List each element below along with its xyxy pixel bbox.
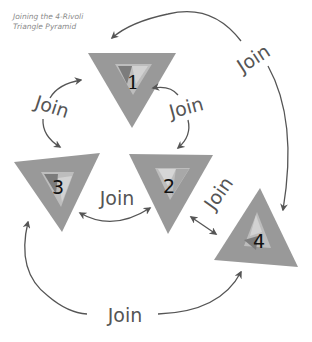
- join-3-2: Join: [80, 187, 150, 221]
- arrow-to-triangle-1: [153, 87, 178, 95]
- join-3-4-label: Join: [107, 304, 143, 326]
- triangle-2: 2: [129, 154, 213, 234]
- arrow-to-triangle-2: [178, 120, 189, 148]
- join-3-4: Join: [25, 222, 241, 326]
- join-2-4: Join: [191, 173, 237, 234]
- join-1-2-label: Join: [166, 92, 206, 122]
- triangle-1: 1: [88, 53, 176, 128]
- arrow-to-triangle-3: [25, 222, 87, 314]
- arrow-to-triangle-1: [112, 12, 241, 41]
- triangle-4-label: 4: [253, 230, 265, 252]
- arrow-to-triangle-4: [268, 66, 288, 210]
- triangle-2-label: 2: [163, 175, 175, 197]
- join-2-4-label: Join: [199, 173, 237, 215]
- join-1-2: Join: [153, 87, 206, 148]
- join-1-3: Join: [31, 80, 81, 147]
- triangle-1-label: 1: [127, 71, 139, 93]
- triangle-3: 3: [14, 153, 100, 232]
- arrow-to-triangle-3: [43, 119, 60, 147]
- arrow-to-triangle-4: [158, 272, 241, 314]
- join-1-4-label: Join: [232, 39, 274, 77]
- double-arrow-2-4: [191, 217, 216, 234]
- double-arrow-3-2: [80, 208, 150, 221]
- join-3-2-label: Join: [99, 187, 135, 209]
- join-1-3-label: Join: [31, 90, 72, 122]
- triangle-3-label: 3: [52, 176, 64, 198]
- pyramid-join-diagram: 1 3 2 4 Join Join Join: [0, 0, 312, 342]
